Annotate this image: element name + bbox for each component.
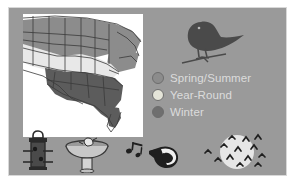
bird-head bbox=[149, 146, 178, 168]
bathing-bird bbox=[79, 138, 97, 146]
migrating-birds-moon-icon bbox=[199, 133, 271, 173]
bird-body bbox=[188, 22, 244, 56]
perched-bird-silhouette bbox=[174, 14, 250, 66]
legend: Spring/Summer Year-Round Winter bbox=[152, 70, 286, 121]
birdbath-icon bbox=[63, 133, 111, 173]
circle-swatch-icon bbox=[152, 72, 164, 84]
poster-canvas: Spring/Summer Year-Round Winter bbox=[0, 0, 295, 183]
circle-swatch-icon bbox=[152, 106, 164, 118]
legend-item-label: Spring/Summer bbox=[170, 72, 251, 85]
birdbath-pedestal bbox=[80, 158, 94, 173]
bird-feeder-icon bbox=[21, 129, 55, 173]
legend-item-label: Winter bbox=[170, 106, 204, 119]
singing-bird-icon bbox=[123, 135, 181, 173]
bird-eye bbox=[198, 27, 201, 30]
range-map bbox=[23, 14, 143, 137]
legend-item-label: Year-Round bbox=[170, 89, 232, 102]
poster-panel: Spring/Summer Year-Round Winter bbox=[8, 7, 287, 176]
music-notes bbox=[125, 142, 142, 158]
legend-item-spring-summer[interactable]: Spring/Summer bbox=[152, 70, 286, 86]
feeder-body bbox=[23, 131, 53, 170]
legend-item-year-round[interactable]: Year-Round bbox=[152, 87, 286, 103]
circle-swatch-icon bbox=[152, 89, 164, 101]
legend-item-winter[interactable]: Winter bbox=[152, 104, 286, 120]
perch-branch bbox=[182, 54, 226, 63]
